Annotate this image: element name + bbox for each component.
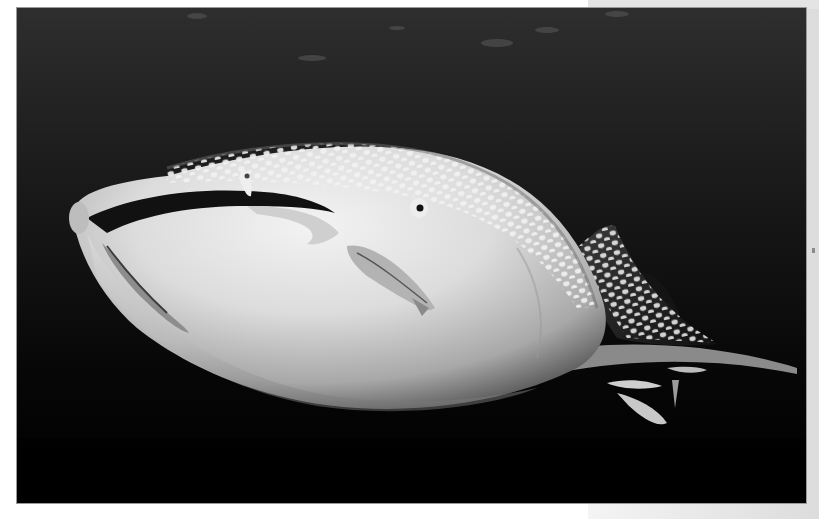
- scan-mark: [812, 248, 815, 253]
- whale-shark-photo: [17, 8, 806, 503]
- photo-illustration: [17, 8, 806, 503]
